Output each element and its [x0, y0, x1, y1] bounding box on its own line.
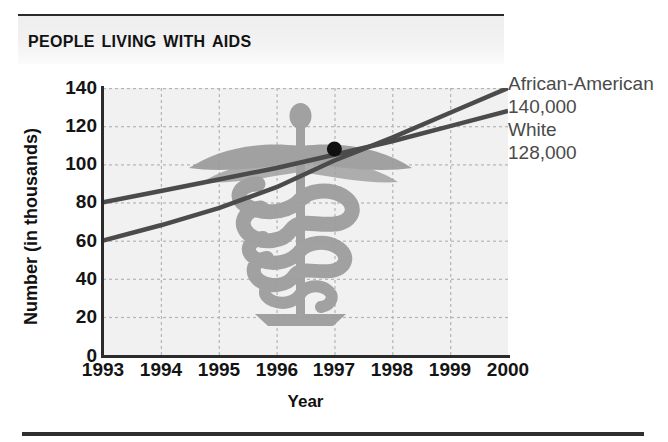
legend-label-white: White: [508, 118, 668, 141]
y-axis-label: Number (in thousands): [21, 112, 42, 342]
x-tick-2000: 2000: [476, 360, 540, 379]
legend: African-American 140,000 White 128,000: [508, 72, 668, 164]
x-axis-label: Year: [103, 392, 508, 412]
x-tick-1995: 1995: [187, 360, 251, 379]
x-tick-1993: 1993: [71, 360, 135, 379]
y-tick-60: 60: [53, 231, 97, 250]
chart-container: 140 120 100 80 60 40 20 0 Number (in tho…: [0, 0, 668, 442]
y-tick-40: 40: [53, 269, 97, 288]
caduceus-icon: [189, 103, 412, 326]
x-axis-ticks: 1993 1994 1995 1996 1997 1998 1999 2000: [0, 360, 668, 390]
y-tick-120: 120: [53, 116, 97, 135]
legend-value-african-american: 140,000: [508, 95, 668, 118]
y-tick-140: 140: [53, 78, 97, 97]
y-tick-80: 80: [53, 192, 97, 211]
x-tick-1994: 1994: [129, 360, 193, 379]
x-tick-1996: 1996: [245, 360, 309, 379]
plot-svg: [103, 88, 508, 355]
x-tick-1999: 1999: [418, 360, 482, 379]
y-axis-line: [101, 86, 104, 357]
legend-value-white: 128,000: [508, 141, 668, 164]
plot-area: [103, 88, 508, 355]
crossover-point-marker: [327, 142, 342, 157]
x-tick-1997: 1997: [302, 360, 366, 379]
x-axis-line: [101, 355, 510, 358]
x-tick-1998: 1998: [360, 360, 424, 379]
y-tick-100: 100: [53, 154, 97, 173]
bottom-rule: [22, 432, 644, 436]
y-tick-20: 20: [53, 307, 97, 326]
legend-label-african-american: African-American: [508, 72, 668, 95]
